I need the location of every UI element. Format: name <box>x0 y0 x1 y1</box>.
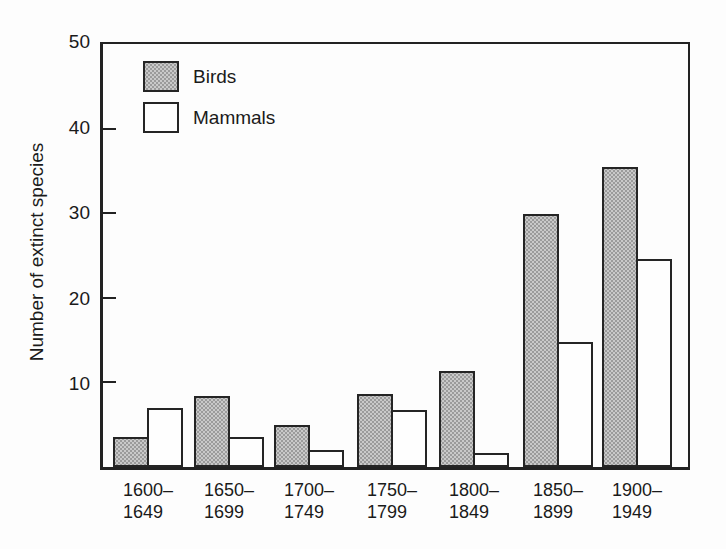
legend: Birds Mammals <box>143 61 275 143</box>
y-tick-label-50: 50 <box>50 30 90 54</box>
bar-birds-1800–1849 <box>439 371 475 467</box>
bar-birds-1600–1649 <box>113 437 149 467</box>
bar-birds-1900–1949 <box>602 167 638 467</box>
bar-mammals-1600–1649 <box>147 408 183 467</box>
y-tick-label-10: 10 <box>50 372 90 396</box>
legend-item-birds: Birds <box>143 61 275 92</box>
bar-birds-1850–1899 <box>523 214 559 467</box>
birds-swatch-icon <box>143 61 179 92</box>
legend-label-birds: Birds <box>193 66 236 88</box>
x-label-1900–1949: 1900–1949 <box>612 479 662 523</box>
bar-mammals-1900–1949 <box>636 259 672 467</box>
plot-frame: Birds Mammals <box>100 42 690 470</box>
x-label-1650–1699: 1650–1699 <box>204 479 254 523</box>
y-tick-label-20: 20 <box>50 287 90 311</box>
bar-mammals-1650–1699 <box>228 437 264 467</box>
y-tick-40 <box>103 128 116 130</box>
extinct-species-bar-chart-figure: Number of extinct species 1020304050 Bir… <box>0 0 726 549</box>
bar-birds-1750–1799 <box>357 394 393 467</box>
x-label-1800–1849: 1800–1849 <box>449 479 499 523</box>
y-tick-10 <box>103 381 116 383</box>
mammals-swatch-icon <box>143 102 179 133</box>
y-tick-30 <box>103 212 116 214</box>
bar-mammals-1700–1749 <box>308 450 344 467</box>
x-label-1750–1799: 1750–1799 <box>367 479 417 523</box>
y-tick-20 <box>103 297 116 299</box>
bar-mammals-1750–1799 <box>391 410 427 467</box>
bar-mammals-1850–1899 <box>557 342 593 467</box>
x-label-1700–1749: 1700–1749 <box>284 479 334 523</box>
bar-birds-1650–1699 <box>194 396 230 467</box>
plot-area: Birds Mammals <box>103 44 688 467</box>
legend-label-mammals: Mammals <box>193 107 275 129</box>
y-axis-title: Number of extinct species <box>26 143 48 362</box>
y-tick-label-30: 30 <box>50 201 90 225</box>
bar-mammals-1800–1849 <box>473 453 509 467</box>
x-label-1600–1649: 1600–1649 <box>123 479 173 523</box>
y-tick-label-40: 40 <box>50 116 90 140</box>
legend-item-mammals: Mammals <box>143 102 275 133</box>
bar-birds-1700–1749 <box>274 425 310 467</box>
x-label-1850–1899: 1850–1899 <box>533 479 583 523</box>
